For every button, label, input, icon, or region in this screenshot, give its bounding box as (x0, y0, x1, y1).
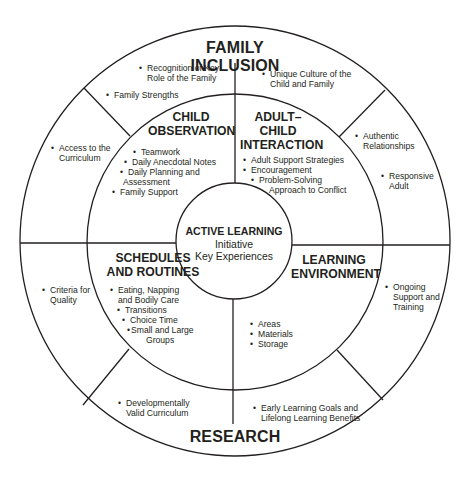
quadrant-list-adult-child-interaction: •Adult Support Strategies •Encouragement… (243, 155, 346, 195)
item-authentic-relationships: •Authentic Relationships (355, 131, 415, 151)
quadrant-title-learning-environment: LEARNING ENVIRONMENT (291, 253, 377, 281)
center-title-active-learning: ACTIVE LEARNING (184, 225, 284, 237)
ring-label-research: RESEARCH (130, 428, 340, 446)
quadrant-title-adult-child-interaction: ADULT– CHILD INTERACTION (240, 110, 316, 152)
item-criteria-for-quality: •Criteria for Quality (42, 285, 90, 305)
item-family-strengths: •Family Strengths (106, 90, 178, 100)
bullet-icon: • (42, 285, 50, 295)
quadrant-title-child-observation: CHILD OBSERVATION (148, 110, 234, 138)
bullet-icon: • (106, 90, 114, 100)
bullet-icon: • (251, 175, 259, 185)
bullet-icon: • (118, 398, 126, 408)
bullet-icon: • (253, 403, 261, 413)
spoke-bottom-right (337, 350, 383, 400)
item-access-to-curriculum: •Access to the Curriculum (51, 143, 111, 163)
quadrant-list-learning-environment: •Areas •Materials •Storage (250, 319, 293, 349)
bullet-icon: • (262, 69, 270, 79)
item-early-learning-goals: •Early Learning Goals and Lifelong Learn… (253, 403, 360, 423)
bullet-icon: • (112, 187, 120, 197)
bullet-icon: • (250, 329, 258, 339)
bullet-icon: • (122, 315, 130, 325)
center-lines: Initiative Key Experiences (180, 239, 288, 263)
spoke-bottom-left (83, 349, 129, 405)
bullet-icon: • (133, 147, 141, 157)
center-line-key-experiences: Key Experiences (180, 251, 288, 263)
item-developmentally-valid: •Developmentally Valid Curriculum (118, 398, 190, 418)
bullet-icon: • (381, 171, 389, 181)
bullet-icon: • (124, 157, 132, 167)
bullet-icon: • (139, 63, 147, 73)
quadrant-list-child-observation: •Teamwork •Daily Anecdotal Notes •Daily … (112, 147, 216, 197)
bullet-icon: • (51, 143, 59, 153)
item-responsive-adult: •Responsive Adult (381, 171, 434, 191)
bullet-icon: • (385, 282, 393, 292)
quadrant-list-schedules-and-routines: •Eating, Napping and Bodily Care •Transi… (110, 285, 194, 345)
bullet-icon: • (250, 339, 258, 349)
bullet-icon: • (243, 155, 251, 165)
bullet-icon: • (243, 165, 251, 175)
item-unique-culture: •Unique Culture of the Child and Family (262, 69, 351, 89)
item-recognition-of-key-role: •Recognition of Key Role of the Family (139, 63, 219, 83)
spoke-top-right (339, 90, 385, 137)
bullet-icon: • (110, 285, 118, 295)
bullet-icon: • (120, 167, 128, 177)
bullet-icon: • (355, 131, 363, 141)
center-line-initiative: Initiative (180, 239, 288, 251)
bullet-icon: • (250, 319, 258, 329)
bullet-icon: • (117, 305, 125, 315)
item-ongoing-support: •Ongoing Support and Training (385, 282, 440, 312)
